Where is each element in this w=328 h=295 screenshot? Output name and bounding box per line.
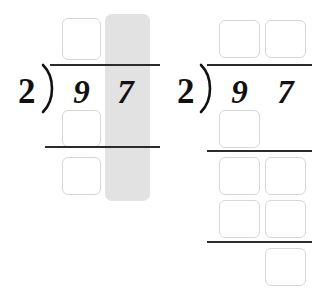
left-remainder-tens-box[interactable] xyxy=(62,157,101,195)
right-bring-down-ones-box[interactable] xyxy=(265,157,306,195)
right-divisor: 2 xyxy=(177,74,195,109)
right-dividend-tens-digit: 9 xyxy=(219,76,260,109)
left-dividend-tens-digit: 9 xyxy=(62,76,101,109)
right-bring-down-tens-box[interactable] xyxy=(219,157,260,195)
right-partial-product-tens-box[interactable] xyxy=(219,110,260,148)
left-dividend-ones-digit: 7 xyxy=(106,76,145,109)
right-second-partial-product-ones-box[interactable] xyxy=(265,200,306,238)
left-quotient-ones-box[interactable] xyxy=(62,18,101,60)
right-dividend-ones-digit: 7 xyxy=(265,76,306,109)
worksheet-canvas: 2 9 7 2 9 7 xyxy=(0,0,328,295)
right-second-partial-product-tens-box[interactable] xyxy=(219,200,260,238)
left-subtraction-rule xyxy=(45,146,160,148)
right-division-problem: 2 9 7 xyxy=(164,0,328,295)
left-vinculum xyxy=(50,64,160,66)
right-second-subtraction-rule xyxy=(207,241,312,243)
left-partial-product-tens-box[interactable] xyxy=(62,110,101,147)
right-remainder-ones-box[interactable] xyxy=(265,248,306,286)
left-division-bracket xyxy=(41,64,63,114)
left-division-problem: 2 9 7 xyxy=(0,0,164,295)
left-divisor: 2 xyxy=(18,74,36,109)
right-division-bracket xyxy=(199,64,221,114)
right-vinculum xyxy=(207,64,312,66)
right-first-subtraction-rule xyxy=(207,150,312,152)
right-quotient-ones-box[interactable] xyxy=(265,20,306,58)
right-quotient-tens-box[interactable] xyxy=(219,20,260,58)
